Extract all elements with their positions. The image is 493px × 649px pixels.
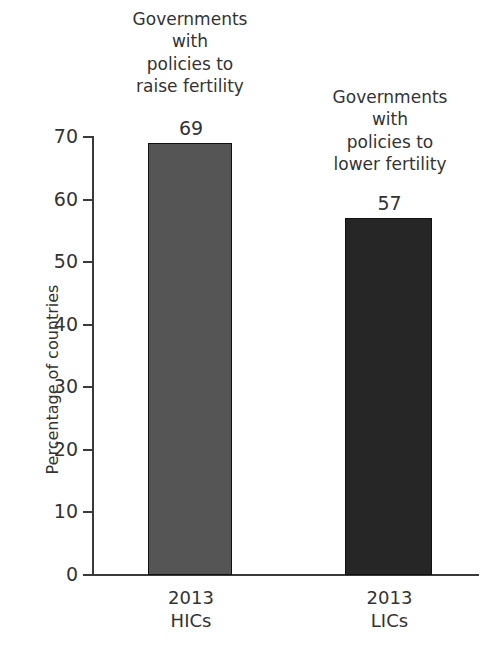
y-tick-label-60: 60 (18, 190, 78, 209)
y-tick-20 (83, 449, 93, 451)
annotation-bar-1-line-4: raise fertility (110, 75, 270, 97)
bar-value-label-2: 57 (347, 194, 432, 213)
y-axis-line (92, 136, 94, 576)
x-tick-label-2-line-1: 2013 (367, 587, 413, 608)
y-tick-70 (83, 136, 93, 138)
y-tick-label-10: 10 (18, 502, 78, 521)
annotation-bar-2-line-1: Governments (310, 86, 470, 108)
y-tick-60 (83, 199, 93, 201)
bar-chart: Percentage of countries 010203040506070 … (0, 0, 493, 649)
y-tick-50 (83, 261, 93, 263)
x-tick-label-1: 2013 HICs (150, 586, 232, 633)
x-tick-label-1-line-1: 2013 (168, 587, 214, 608)
x-tick-label-2: 2013 LICs (347, 586, 432, 633)
annotation-bar-1-line-1: Governments (110, 8, 270, 30)
y-tick-label-40: 40 (18, 315, 78, 334)
bar-value-label-1: 69 (150, 119, 232, 138)
y-tick-label-20: 20 (18, 440, 78, 459)
annotation-bar-1-line-3: policies to (110, 53, 270, 75)
y-tick-30 (83, 386, 93, 388)
y-tick-0 (83, 574, 93, 576)
y-tick-label-50: 50 (18, 252, 78, 271)
annotation-bar-2-line-3: policies to (310, 131, 470, 153)
y-tick-40 (83, 324, 93, 326)
annotation-bar-1-line-2: with (110, 30, 270, 52)
annotation-bar-1: Governments with policies to raise ferti… (110, 8, 270, 98)
bar-2013-hics[interactable] (148, 143, 232, 575)
bar-2013-lics[interactable] (345, 218, 432, 575)
y-tick-10 (83, 511, 93, 513)
x-tick-label-1-line-2: HICs (150, 609, 232, 632)
y-tick-label-0: 0 (18, 565, 78, 584)
annotation-bar-2-line-4: lower fertility (310, 153, 470, 175)
annotation-bar-2-line-2: with (310, 108, 470, 130)
annotation-bar-2: Governments with policies to lower ferti… (310, 86, 470, 176)
y-tick-label-70: 70 (18, 127, 78, 146)
x-tick-label-2-line-2: LICs (347, 609, 432, 632)
y-tick-label-30: 30 (18, 377, 78, 396)
